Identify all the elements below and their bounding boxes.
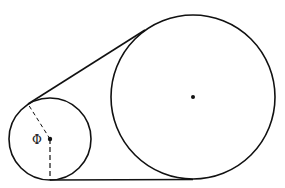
belt-pulley-diagram: Φ [0, 0, 285, 188]
large-pulley-center [191, 95, 195, 99]
upper-tangent-line [28, 30, 145, 104]
angle-label-phi: Φ [32, 133, 42, 147]
lower-tangent-line [50, 180, 193, 181]
